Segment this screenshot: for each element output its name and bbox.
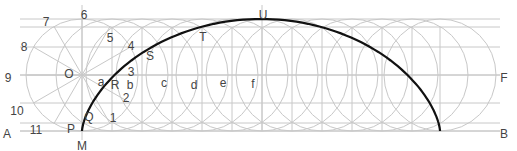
line-end-label: B bbox=[500, 127, 508, 141]
division-point-label: 6 bbox=[81, 8, 88, 22]
line-end-label: A bbox=[3, 127, 11, 141]
curve-point-label: R bbox=[111, 78, 120, 92]
division-point-label: 8 bbox=[21, 40, 28, 54]
division-point-label: 9 bbox=[5, 71, 12, 85]
cycloid-diagram: 1234567891011MPQRSTUOabcdefABF bbox=[0, 0, 517, 151]
center-label: b bbox=[127, 78, 134, 92]
center-label: f bbox=[251, 77, 255, 91]
division-point-label: 4 bbox=[128, 39, 135, 53]
division-point-label: 7 bbox=[43, 15, 50, 29]
line-end-label: F bbox=[500, 71, 507, 85]
center-label: O bbox=[64, 67, 73, 81]
division-point-label: 3 bbox=[128, 65, 135, 79]
center-label: c bbox=[161, 76, 167, 90]
division-point-label: 2 bbox=[123, 91, 130, 105]
curve-point-label: U bbox=[259, 8, 268, 22]
curve-point-label: Q bbox=[84, 110, 93, 124]
center-label: a bbox=[98, 75, 105, 89]
curve-point-label: P bbox=[67, 122, 75, 136]
division-point-label: 5 bbox=[107, 31, 114, 45]
curve-point-label: S bbox=[146, 49, 154, 63]
division-point-label: 1 bbox=[110, 111, 117, 125]
curve-point-label: M bbox=[77, 139, 87, 151]
center-label: e bbox=[220, 76, 227, 90]
center-label: d bbox=[191, 78, 198, 92]
division-point-label: 11 bbox=[30, 123, 43, 137]
division-point-label: 10 bbox=[10, 104, 24, 118]
curve-point-label: T bbox=[199, 30, 207, 44]
